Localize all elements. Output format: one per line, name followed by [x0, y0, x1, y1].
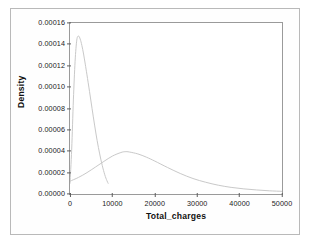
x-axis-tick-mark: [69, 193, 70, 197]
y-axis-tick: 0.00010: [38, 84, 70, 91]
y-axis-tick-label: 0.00016: [38, 19, 67, 26]
density-plot-figure: 0.000000.000020.000040.000060.000080.000…: [10, 8, 300, 235]
x-axis-tick-mark: [154, 193, 155, 197]
y-axis-tick: 0.00008: [38, 105, 70, 112]
x-axis-tick-label: 0: [68, 200, 72, 207]
x-axis-title: Total_charges: [69, 211, 283, 221]
plot-area: 0.000000.000020.000040.000060.000080.000…: [69, 22, 283, 195]
y-axis-tick-label: 0.00012: [38, 62, 67, 69]
y-axis-tick-mark: [67, 65, 71, 66]
y-axis-tick: 0.00006: [38, 126, 70, 133]
y-axis-tick-label: 0.00010: [38, 84, 67, 91]
x-axis-tick: 20000: [145, 194, 166, 207]
y-axis-tick-label: 0.00000: [38, 190, 67, 197]
density-curves-svg: [70, 23, 282, 194]
y-axis-title: Density: [16, 76, 26, 108]
x-axis-tick-label: 20000: [145, 200, 166, 207]
x-axis-tick: 10000: [102, 194, 123, 207]
x-axis-tick-mark: [239, 193, 240, 197]
chart-page: 0.000000.000020.000040.000060.000080.000…: [0, 0, 314, 246]
series-broad-density-curve: [70, 152, 282, 192]
y-axis-tick: 0.00014: [38, 41, 70, 48]
y-axis-tick-mark: [67, 108, 71, 109]
y-axis-tick: 0.00012: [38, 62, 70, 69]
y-axis-tick: 0.00016: [38, 19, 70, 26]
series-narrow-density-curve: [70, 36, 108, 183]
y-axis-tick-label: 0.00014: [38, 41, 67, 48]
y-axis-tick-mark: [67, 172, 71, 173]
y-axis-tick-label: 0.00006: [38, 126, 67, 133]
x-axis-tick: 30000: [187, 194, 208, 207]
x-axis-tick-mark: [197, 193, 198, 197]
x-axis-tick-mark: [282, 193, 283, 197]
x-axis-tick-mark: [112, 193, 113, 197]
x-axis-tick: 50000: [272, 194, 293, 207]
y-axis-tick-mark: [67, 151, 71, 152]
y-axis-tick-label: 0.00002: [38, 169, 67, 176]
y-axis-tick: 0.00004: [38, 148, 70, 155]
x-axis-tick: 40000: [229, 194, 250, 207]
x-axis-tick: 0: [68, 194, 72, 207]
y-axis-tick: 0.00000: [38, 190, 70, 197]
x-axis-tick-label: 50000: [272, 200, 293, 207]
x-axis-tick-label: 30000: [187, 200, 208, 207]
x-axis-tick-label: 10000: [102, 200, 123, 207]
y-axis-tick: 0.00002: [38, 169, 70, 176]
y-axis-tick-label: 0.00004: [38, 148, 67, 155]
y-axis-tick-mark: [67, 129, 71, 130]
y-axis-tick-mark: [67, 22, 71, 23]
y-axis-tick-mark: [67, 87, 71, 88]
x-axis-tick-label: 40000: [229, 200, 250, 207]
y-axis-tick-mark: [67, 44, 71, 45]
y-axis-tick-label: 0.00008: [38, 105, 67, 112]
